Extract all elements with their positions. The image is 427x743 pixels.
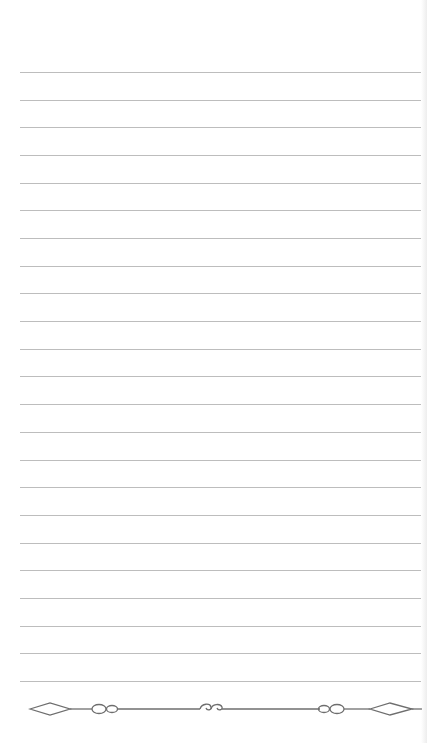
- center-scroll-icon: [200, 704, 211, 710]
- decorative-divider-icon: [28, 697, 427, 721]
- ruled-line: [20, 266, 421, 267]
- ruled-line: [20, 72, 421, 73]
- ruled-line: [20, 238, 421, 239]
- ruled-line: [20, 321, 421, 322]
- ruled-line: [20, 543, 421, 544]
- ruled-line: [20, 681, 421, 682]
- right-diamond-icon: [370, 703, 412, 715]
- right-loop-icon: [319, 706, 330, 713]
- ruled-line: [20, 376, 421, 377]
- ruled-line: [20, 432, 421, 433]
- ruled-line: [20, 487, 421, 488]
- notebook-page: [0, 0, 427, 743]
- ruled-line: [20, 349, 421, 350]
- ruled-line: [20, 210, 421, 211]
- left-diamond-icon: [30, 703, 70, 715]
- ruled-line: [20, 598, 421, 599]
- ruled-line: [20, 293, 421, 294]
- ruled-line: [20, 460, 421, 461]
- ruled-line: [20, 127, 421, 128]
- ruled-line: [20, 100, 421, 101]
- ruled-line: [20, 155, 421, 156]
- ruled-line: [20, 570, 421, 571]
- ruled-line: [20, 404, 421, 405]
- page-edge-shadow: [421, 0, 427, 743]
- ruled-line: [20, 653, 421, 654]
- ruled-line: [20, 515, 421, 516]
- left-loop-icon: [92, 705, 106, 714]
- ruled-line: [20, 183, 421, 184]
- ruled-line: [20, 626, 421, 627]
